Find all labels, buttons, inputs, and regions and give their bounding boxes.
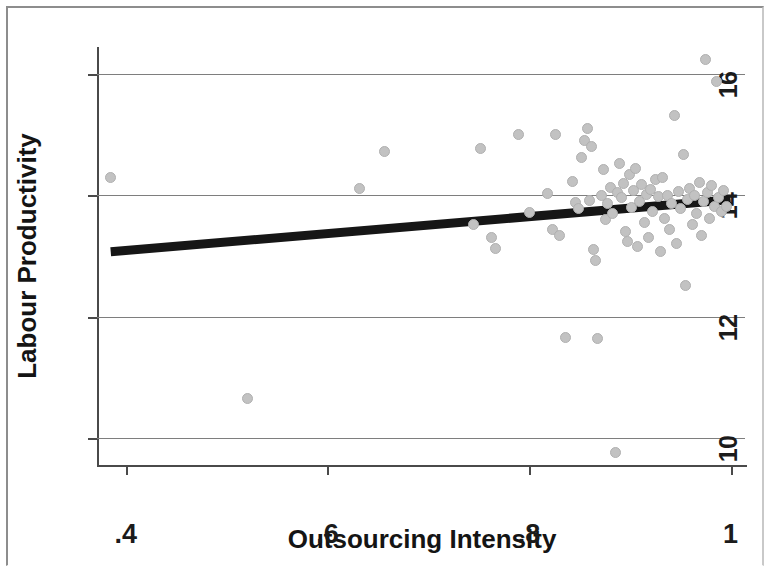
scatter-point <box>614 158 625 169</box>
scatter-point <box>664 224 675 235</box>
scatter-point <box>468 219 479 230</box>
scatter-point <box>669 110 680 121</box>
scatter-point <box>542 188 553 199</box>
scatter-point <box>696 230 707 241</box>
scatter-point <box>675 203 686 214</box>
scatter-point <box>573 203 584 214</box>
y-tick-label: 10 <box>715 435 744 462</box>
x-axis-title: Outsourcing Intensity <box>97 524 747 555</box>
gridline-y <box>97 438 745 439</box>
scatter-point <box>711 76 722 87</box>
scatter-point <box>678 149 689 160</box>
scatter-point <box>706 180 717 191</box>
scatter-point <box>475 143 486 154</box>
scatter-point <box>576 152 587 163</box>
y-tick <box>88 195 97 197</box>
x-tick <box>529 465 531 475</box>
scatter-point <box>700 54 711 65</box>
scatter-point <box>592 333 603 344</box>
scatter-point <box>704 213 715 224</box>
scatter-point <box>590 255 601 266</box>
scatter-point <box>671 238 682 249</box>
scatter-point <box>643 232 654 243</box>
scatter-point <box>630 163 641 174</box>
scatter-point <box>586 141 597 152</box>
x-tick-label: .4 <box>115 519 138 550</box>
y-axis-title: Labour Productivity <box>10 47 44 465</box>
scatter-point <box>354 183 365 194</box>
figure-canvas: Labour Productivity Outsourcing Intensit… <box>0 0 773 586</box>
y-axis-line <box>97 47 99 465</box>
y-tick <box>88 74 97 76</box>
plot-area: 10121416 .4.6.81 <box>97 47 745 465</box>
scatter-point <box>490 243 501 254</box>
scatter-point <box>639 217 650 228</box>
scatter-point <box>691 208 702 219</box>
x-tick-label: .6 <box>316 519 339 550</box>
scatter-point <box>647 206 658 217</box>
x-axis-line <box>97 465 747 467</box>
gridline-y <box>97 317 745 318</box>
scatter-point <box>659 213 670 224</box>
y-tick <box>88 438 97 440</box>
x-tick <box>126 465 128 475</box>
scatter-point <box>582 123 593 134</box>
scatter-point <box>718 185 729 196</box>
scatter-point <box>687 219 698 230</box>
scatter-point <box>242 393 253 404</box>
scatter-point <box>105 172 116 183</box>
x-tick <box>731 465 733 475</box>
scatter-point <box>632 241 643 252</box>
gridline-y <box>97 74 745 75</box>
scatter-point <box>694 177 705 188</box>
scatter-point <box>379 146 390 157</box>
scatter-point <box>588 244 599 255</box>
scatter-point <box>721 201 732 212</box>
scatter-point <box>616 192 627 203</box>
x-tick-label: .8 <box>518 519 541 550</box>
regression-line <box>97 47 745 465</box>
scatter-point <box>513 129 524 140</box>
scatter-point <box>554 230 565 241</box>
scatter-point <box>560 332 571 343</box>
scatter-point <box>598 164 609 175</box>
scatter-point <box>584 195 595 206</box>
scatter-point <box>567 176 578 187</box>
scatter-point <box>657 172 668 183</box>
scatter-point <box>486 232 497 243</box>
scatter-point <box>524 207 535 218</box>
y-tick-label: 12 <box>715 314 744 341</box>
x-tick-label: 1 <box>723 519 738 550</box>
scatter-point <box>610 447 621 458</box>
scatter-point <box>550 129 561 140</box>
y-tick <box>88 317 97 319</box>
scatter-point <box>607 208 618 219</box>
x-tick <box>327 465 329 475</box>
scatter-point <box>680 280 691 291</box>
scatter-point <box>655 246 666 257</box>
